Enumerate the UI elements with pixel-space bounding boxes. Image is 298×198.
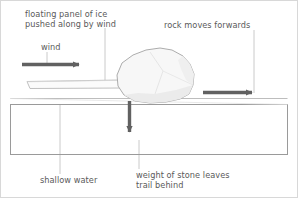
label-weight-of-stone: weight of stone leaves trail behind: [136, 170, 230, 190]
label-rock-moves-forwards: rock moves forwards: [164, 20, 250, 30]
diagram-figure: floating panel of ice pushed along by wi…: [0, 0, 298, 198]
water-box: [11, 105, 288, 155]
diagram-canvas: [0, 0, 298, 198]
ice-panel: [27, 80, 124, 89]
label-shallow-water: shallow water: [40, 175, 97, 185]
label-floating-panel-of-ice: floating panel of ice pushed along by wi…: [25, 9, 116, 29]
label-wind: wind: [41, 42, 61, 52]
rock: [117, 48, 194, 103]
